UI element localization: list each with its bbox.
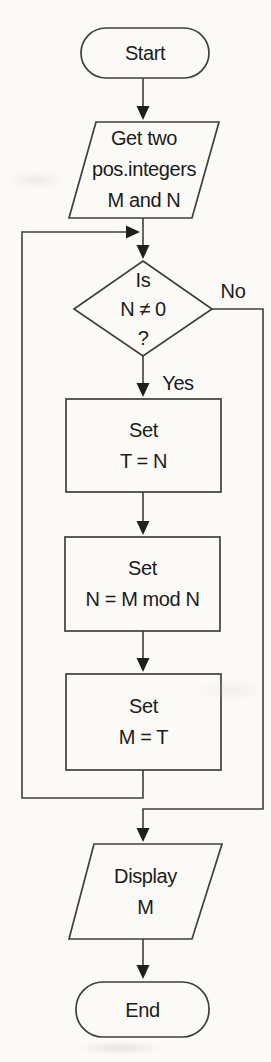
arrowhead-loop-junction (126, 226, 140, 239)
display-node-label: Display M (69, 844, 222, 939)
arrowhead-input-to-decision (137, 245, 150, 259)
arrowhead-start-to-input (137, 106, 150, 120)
process-set-m-label: Set M = T (66, 674, 221, 770)
arrowhead-set-t-to-set-n (137, 521, 150, 535)
arrowhead-display-to-end (137, 965, 150, 979)
yes-branch-label: Yes (155, 369, 201, 396)
no-branch-label: No (211, 277, 255, 304)
arrowhead-no-to-display (137, 828, 150, 842)
start-node-label: Start (81, 28, 209, 78)
arrowhead-yes-branch (137, 383, 150, 397)
process-set-n-label: Set N = M mod N (65, 537, 220, 631)
flowchart-canvas: Start Get two pos.integers M and N Is N … (0, 0, 271, 1062)
decision-node-label: Is N ≠ 0 ? (74, 263, 212, 355)
arrowhead-set-n-to-set-m (137, 658, 150, 672)
process-set-t-label: Set T = N (66, 399, 221, 492)
input-node-label: Get two pos.integers M and N (69, 121, 219, 218)
end-node-label: End (76, 982, 209, 1037)
